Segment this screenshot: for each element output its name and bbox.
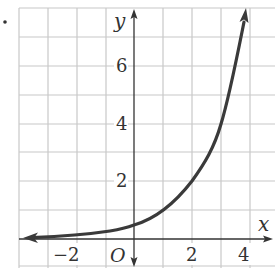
exponential-graph: y x O 6 4 2 −2 2 4	[0, 0, 275, 268]
x-tick-2: 2	[186, 244, 197, 265]
x-axis-label: x	[258, 212, 269, 236]
origin-label: O	[110, 244, 126, 266]
y-tick-6: 6	[116, 55, 127, 76]
bullet-dot	[3, 20, 7, 24]
y-tick-2: 2	[116, 170, 127, 191]
y-tick-4: 4	[116, 113, 127, 134]
x-tick-4: 4	[238, 244, 249, 265]
y-axis-label: y	[113, 9, 126, 33]
x-tick-neg2: −2	[53, 244, 80, 265]
grid	[19, 8, 275, 268]
curve	[23, 8, 249, 243]
y-axis	[131, 9, 138, 267]
